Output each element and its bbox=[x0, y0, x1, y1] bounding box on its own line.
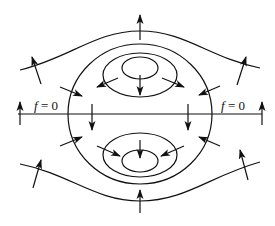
label-f-equals-zero-right: f = 0 bbox=[221, 99, 245, 112]
arrow-icon-circle-lower-right-in bbox=[199, 137, 220, 146]
label-value: = 0 bbox=[38, 98, 58, 113]
arrow-icon-inner-lower-left-in bbox=[97, 146, 120, 156]
arrow-icon-bottom-right-wave bbox=[240, 150, 248, 180]
arrow-icon-bottom-left-wave bbox=[33, 160, 41, 188]
arrow-icon-top-left-wave bbox=[32, 57, 41, 84]
label-value: = 0 bbox=[225, 98, 245, 113]
label-f-equals-zero-left: f = 0 bbox=[34, 99, 58, 112]
arrow-icon-circle-lower-left-in bbox=[60, 137, 82, 146]
arrow-icon-top-right-wave bbox=[237, 57, 246, 85]
arrow-icon-inner-lower-right-in bbox=[161, 146, 184, 156]
diagram-canvas bbox=[0, 0, 275, 226]
field-diagram: f = 0 f = 0 bbox=[0, 0, 275, 226]
